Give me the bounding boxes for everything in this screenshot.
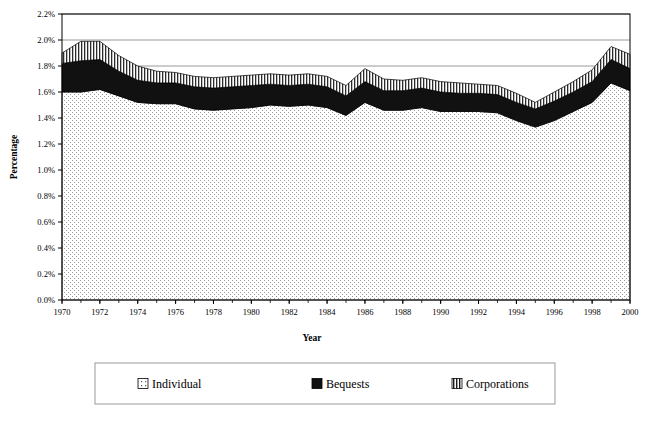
chart-container: 0.0%0.2%0.4%0.6%0.8%1.0%1.2%1.4%1.6%1.8%…: [0, 0, 648, 422]
y-tick-label: 1.6%: [37, 87, 55, 97]
y-tick-label: 0.8%: [37, 191, 55, 201]
y-tick-label: 1.0%: [37, 165, 55, 175]
y-tick-label: 0.4%: [37, 243, 55, 253]
y-tick-label: 2.2%: [37, 9, 55, 19]
y-tick-label: 2.0%: [37, 35, 55, 45]
chart-legend: IndividualBequestsCorporations: [95, 363, 555, 404]
legend-swatch-individual: [138, 379, 148, 389]
legend-label-bequests: Bequests: [326, 377, 370, 391]
x-tick-label: 1990: [432, 307, 449, 317]
x-tick-label: 1982: [281, 307, 298, 317]
x-tick-label: 1976: [167, 307, 184, 317]
stacked-area-chart: 0.0%0.2%0.4%0.6%0.8%1.0%1.2%1.4%1.6%1.8%…: [0, 0, 648, 422]
x-tick-label: 1980: [243, 307, 260, 317]
y-tick-label: 0.6%: [37, 217, 55, 227]
x-tick-label: 1970: [54, 307, 71, 317]
y-tick-label: 1.4%: [37, 113, 55, 123]
legend-swatch-bequests: [312, 379, 322, 389]
x-tick-label: 1988: [394, 307, 411, 317]
x-tick-label: 1994: [508, 307, 526, 317]
y-axis-title: Percentage: [9, 135, 19, 180]
legend-label-corporations: Corporations: [466, 377, 529, 391]
x-tick-label: 1996: [546, 307, 563, 317]
x-tick-label: 1974: [129, 307, 147, 317]
x-tick-label: 1972: [91, 307, 108, 317]
x-tick-label: 1992: [470, 307, 487, 317]
y-axis-ticks: 0.0%0.2%0.4%0.6%0.8%1.0%1.2%1.4%1.6%1.8%…: [37, 9, 62, 305]
x-axis-ticks: 1970197219741976197819801982198419861988…: [54, 300, 639, 317]
x-tick-label: 2000: [622, 307, 639, 317]
y-tick-label: 0.2%: [37, 269, 55, 279]
x-axis-title: Year: [303, 333, 323, 343]
x-tick-label: 1986: [356, 307, 373, 317]
y-tick-label: 1.2%: [37, 139, 55, 149]
legend-swatch-corporations: [452, 379, 462, 389]
y-tick-label: 0.0%: [37, 295, 55, 305]
y-tick-label: 1.8%: [37, 61, 55, 71]
legend-label-individual: Individual: [152, 377, 202, 391]
x-tick-label: 1978: [205, 307, 222, 317]
x-tick-label: 1984: [319, 307, 337, 317]
x-tick-label: 1998: [584, 307, 601, 317]
